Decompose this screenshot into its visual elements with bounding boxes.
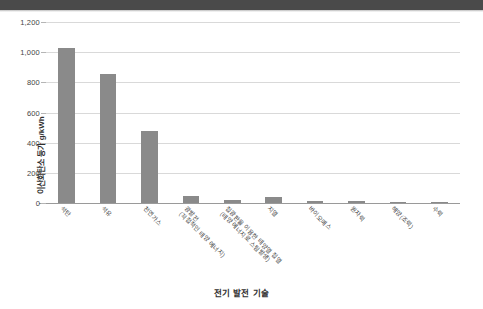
bar-slot[interactable] bbox=[390, 22, 407, 203]
bar[interactable] bbox=[58, 48, 75, 203]
bar-slot[interactable] bbox=[183, 22, 200, 203]
y-axis-tick-label: 600 bbox=[27, 108, 40, 117]
y-axis-tick-label: 400 bbox=[27, 138, 40, 147]
x-axis-tick-label: 해양(조력) bbox=[390, 205, 415, 230]
y-axis-title: 이산화탄소 등가 g/kWh bbox=[35, 116, 46, 193]
bar-series bbox=[46, 22, 460, 203]
x-axis-line bbox=[39, 203, 460, 204]
bar-slot[interactable] bbox=[265, 22, 282, 203]
x-axis-tick-label: 석탄 bbox=[58, 205, 72, 219]
bar[interactable] bbox=[141, 131, 158, 203]
x-axis-tick-label: 지열 bbox=[265, 205, 279, 219]
x-axis-tick-labels: 석탄석유천연가스광발전(직접적인 태양 에너지)집광판을 이용한 태양열 집열(… bbox=[46, 205, 460, 285]
bar-slot[interactable] bbox=[307, 22, 324, 203]
x-axis-tick-label: 천연가스 bbox=[141, 205, 163, 227]
bar[interactable] bbox=[224, 200, 241, 203]
y-axis-tick-label: 800 bbox=[27, 78, 40, 87]
header-strip bbox=[0, 0, 483, 10]
y-axis-tick-label: 200 bbox=[27, 168, 40, 177]
bar[interactable] bbox=[183, 196, 200, 203]
chart-figure: 이산화탄소 등가 g/kWh 02004006008001,0001,200 석… bbox=[0, 0, 483, 309]
x-axis-tick-label: 바이오매스 bbox=[307, 205, 333, 231]
y-axis-tick-mark bbox=[41, 203, 46, 204]
bar[interactable] bbox=[390, 202, 407, 203]
bar[interactable] bbox=[100, 74, 117, 203]
x-axis-tick-label: 원자력 bbox=[348, 205, 366, 223]
bar[interactable] bbox=[431, 202, 448, 203]
x-axis-title: 전기 발전 기술 bbox=[0, 286, 483, 298]
bar-slot[interactable] bbox=[431, 22, 448, 203]
bar-slot[interactable] bbox=[348, 22, 365, 203]
bar-slot[interactable] bbox=[58, 22, 75, 203]
bar-slot[interactable] bbox=[141, 22, 158, 203]
bar[interactable] bbox=[265, 197, 282, 203]
x-axis-tick-label: 석유 bbox=[100, 205, 114, 219]
bar-slot[interactable] bbox=[100, 22, 117, 203]
plot-area: 02004006008001,0001,200 bbox=[46, 22, 460, 203]
bar[interactable] bbox=[307, 201, 324, 203]
y-axis-tick-label: 1,000 bbox=[20, 48, 40, 57]
y-axis-tick-label: 0 bbox=[36, 199, 40, 208]
header-strip-shadow bbox=[0, 10, 483, 12]
y-axis-tick-label: 1,200 bbox=[20, 18, 40, 27]
x-axis-tick-label: 수력 bbox=[431, 205, 445, 219]
bar[interactable] bbox=[348, 201, 365, 203]
bar-slot[interactable] bbox=[224, 22, 241, 203]
